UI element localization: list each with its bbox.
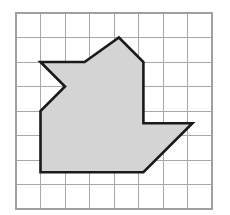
grid-polygon-figure (0, 0, 230, 215)
figure-container (0, 0, 230, 215)
